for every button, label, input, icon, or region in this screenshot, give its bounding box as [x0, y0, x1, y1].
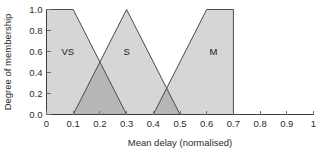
- y-axis-title: Degree of membership: [2, 14, 13, 111]
- y-tick-label: 0.6: [29, 46, 42, 57]
- y-tick-label: 0.2: [29, 88, 42, 99]
- set-label-vs: VS: [62, 46, 75, 57]
- x-axis-title: Mean delay (normalised): [128, 137, 233, 148]
- x-tick-label: 0.7: [227, 118, 240, 129]
- chart-canvas: 00.10.20.30.40.50.60.70.80.91 0.00.20.40…: [0, 0, 330, 155]
- membership-fills: [47, 10, 234, 115]
- x-tick-label: 0.6: [200, 118, 213, 129]
- y-tick-label: 0.0: [29, 109, 42, 120]
- x-tick-label: 1: [311, 118, 316, 129]
- x-tick-label: 0.4: [147, 118, 160, 129]
- y-tick-label: 1.0: [29, 4, 42, 15]
- x-tick-label: 0.1: [67, 118, 80, 129]
- set-label-s: S: [123, 46, 129, 57]
- set-label-m: M: [209, 46, 217, 57]
- y-tick-label: 0.4: [29, 67, 42, 78]
- y-tick-label: 0.8: [29, 25, 42, 36]
- x-tick-label: 0.9: [280, 118, 293, 129]
- x-tick-label: 0.3: [120, 118, 133, 129]
- x-tick-label: 0.2: [93, 118, 106, 129]
- x-tick-label: 0: [44, 118, 49, 129]
- fuzzy-membership-chart: 00.10.20.30.40.50.60.70.80.91 0.00.20.40…: [0, 0, 330, 155]
- x-tick-label: 0.8: [253, 118, 266, 129]
- x-tick-label: 0.5: [173, 118, 186, 129]
